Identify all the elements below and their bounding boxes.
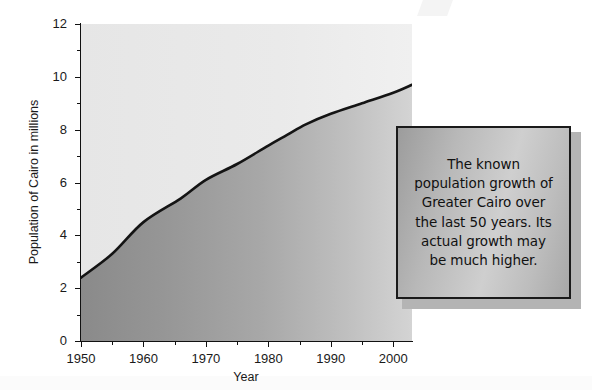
x-tick-label: 2000 (363, 352, 423, 365)
x-tick-major (81, 341, 82, 347)
y-tick-label: 0 (27, 334, 67, 347)
y-tick-minor (77, 50, 81, 51)
x-tick-minor (362, 341, 363, 345)
y-tick-label: 10 (27, 70, 67, 83)
y-tick-minor (77, 103, 81, 104)
caption-line-6: be much higher. (430, 252, 538, 268)
y-tick-label: 12 (27, 17, 67, 30)
x-tick-major (331, 341, 332, 347)
caption-box: The known population growth of Greater C… (396, 126, 571, 299)
x-tick-label: 1960 (113, 352, 173, 365)
y-tick-minor (77, 262, 81, 263)
x-axis-title: Year (186, 370, 306, 384)
y-tick-minor (77, 315, 81, 316)
x-tick-minor (112, 341, 113, 345)
x-tick-minor (175, 341, 176, 345)
x-tick-major (206, 341, 207, 347)
caption-line-3: Greater Cairo over (422, 194, 545, 210)
y-tick-major (75, 130, 81, 131)
x-tick-label: 1980 (238, 352, 298, 365)
y-tick-major (75, 77, 81, 78)
y-tick-major (75, 183, 81, 184)
y-tick-minor (77, 209, 81, 210)
caption-line-1: The known (447, 156, 520, 172)
x-tick-label: 1990 (301, 352, 361, 365)
x-tick-major (143, 341, 144, 347)
caption-line-2: population growth of (414, 175, 552, 191)
caption-text: The known population growth of Greater C… (403, 155, 563, 270)
caption-line-5: actual growth may (421, 233, 546, 249)
x-tick-label: 1950 (51, 352, 111, 365)
x-tick-minor (237, 341, 238, 345)
y-tick-major (75, 288, 81, 289)
y-tick-label: 2 (27, 281, 67, 294)
y-tick-minor (77, 156, 81, 157)
y-tick-major (75, 24, 81, 25)
chart-figure: 024681012195019601970198019902000 Year P… (0, 0, 592, 390)
caption-line-4: the last 50 years. Its (415, 214, 551, 230)
x-tick-label: 1970 (176, 352, 236, 365)
x-tick-major (268, 341, 269, 347)
x-tick-major (393, 341, 394, 347)
y-axis-title: Population of Cairo in millions (27, 92, 41, 272)
x-tick-minor (300, 341, 301, 345)
y-tick-major (75, 235, 81, 236)
